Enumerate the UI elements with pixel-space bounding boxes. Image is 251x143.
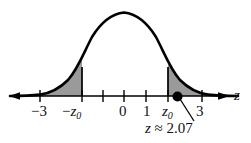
z0-variable: z: [162, 103, 168, 119]
left-tail-shaded-region: [0, 0, 82, 97]
normal-distribution-figure: −3 −z0 0 1 z0 3 z z ≈ 2.07: [0, 0, 251, 143]
marked-point-dot: [173, 92, 183, 102]
neg-z0-subscript: 0: [76, 110, 81, 121]
tick-label-z0: z0: [162, 104, 173, 119]
tick-label-one: 1: [143, 104, 151, 119]
tick-label-neg3: −3: [31, 104, 47, 119]
tick-label-three: 3: [196, 104, 204, 119]
axis-arrow-right: [218, 92, 230, 100]
tick-label-neg-z0: −z0: [62, 104, 81, 119]
annotation-value: ≈ 2.07: [155, 120, 193, 136]
annotation-variable: z: [145, 120, 151, 136]
right-tail-shaded-region: [168, 0, 251, 97]
annotation-leader-line: [180, 99, 194, 121]
axis-arrow-left: [9, 92, 20, 100]
normal-curve: [10, 13, 238, 97]
axis-label-z: z: [234, 88, 240, 103]
plot-canvas: [0, 0, 251, 143]
tick-label-zero: 0: [119, 104, 127, 119]
annotation-z-value: z ≈ 2.07: [145, 121, 193, 136]
